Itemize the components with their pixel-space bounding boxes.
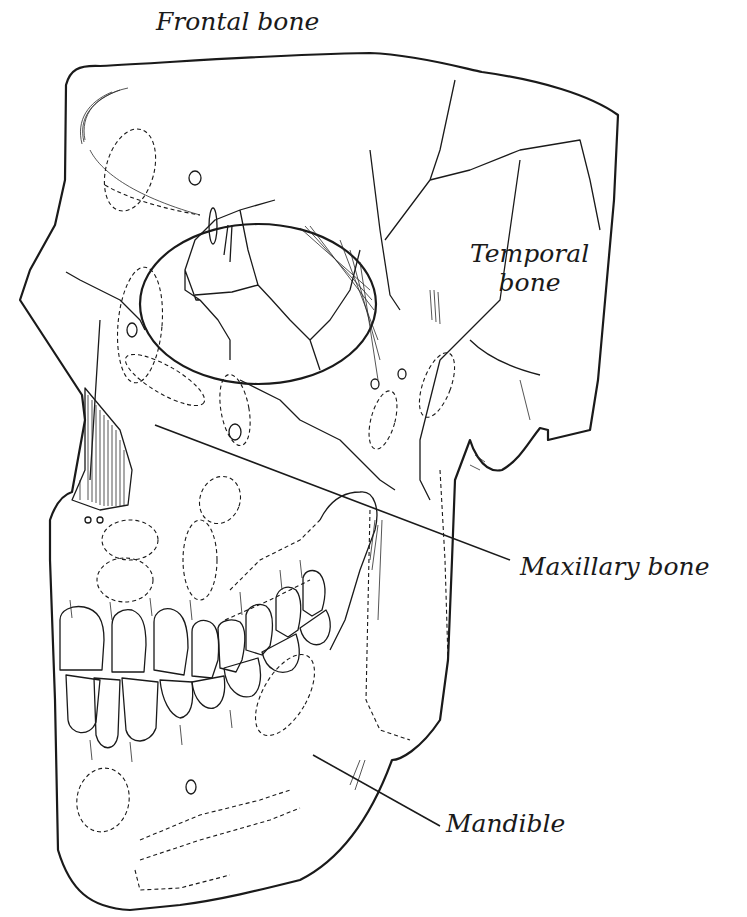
- skull-diagram: Frontal bone Temporal bone Maxillary bon…: [0, 0, 747, 917]
- ramus-posterior: [440, 470, 448, 660]
- upper-teeth: [60, 571, 325, 678]
- infraorbital-canal-outline: [119, 345, 211, 414]
- lower-teeth: [66, 610, 330, 748]
- maxillary-outline-2: [102, 520, 158, 560]
- label-frontal-bone: Frontal bone: [156, 8, 319, 37]
- zygomaticofacial-foramen-2: [398, 369, 406, 379]
- temporal-hatching: [430, 290, 530, 470]
- infraorbital-foramen: [229, 424, 241, 440]
- nasal-foramen-2: [97, 517, 103, 523]
- label-temporal-line-1: Temporal: [470, 240, 589, 269]
- orbit-hatching: [300, 226, 380, 380]
- nasal-foramen-1: [85, 517, 91, 523]
- mandibular-canal: [135, 790, 300, 890]
- supraorbital-foramen: [189, 171, 201, 185]
- maxillary-outline-4: [183, 520, 217, 600]
- zygomatic-outline-2: [364, 388, 403, 452]
- label-temporal-bone: Temporal bone: [470, 240, 589, 298]
- zygomatic-foramen-1: [127, 323, 137, 337]
- mandible-leader-line: [313, 755, 440, 826]
- molar-root-outline: [243, 645, 326, 745]
- ramus-hatching: [350, 520, 382, 790]
- maxillary-outline-5: [225, 520, 320, 620]
- label-mandible: Mandible: [446, 810, 565, 839]
- nasal-hatching: [80, 395, 124, 506]
- nasal-aperture: [72, 388, 132, 510]
- mental-foramen: [186, 780, 196, 794]
- label-maxillary-bone: Maxillary bone: [520, 553, 709, 582]
- ramus-canal: [366, 510, 410, 740]
- zygomaticofacial-foramen-1: [371, 379, 379, 389]
- orbit-margin-outline: [113, 265, 167, 384]
- zygomatic-foramen-outline: [412, 348, 462, 421]
- mandible-ramus: [320, 492, 377, 650]
- lacrimal-slit: [209, 208, 217, 244]
- brow-hatching: [80, 88, 200, 215]
- maxillary-outline-3: [97, 558, 153, 602]
- mental-region-outline: [72, 764, 134, 836]
- skull-outline: [20, 53, 618, 910]
- skull-line-art: [0, 0, 747, 917]
- label-temporal-line-2: bone: [470, 269, 589, 298]
- maxillary-leader-line: [155, 425, 510, 560]
